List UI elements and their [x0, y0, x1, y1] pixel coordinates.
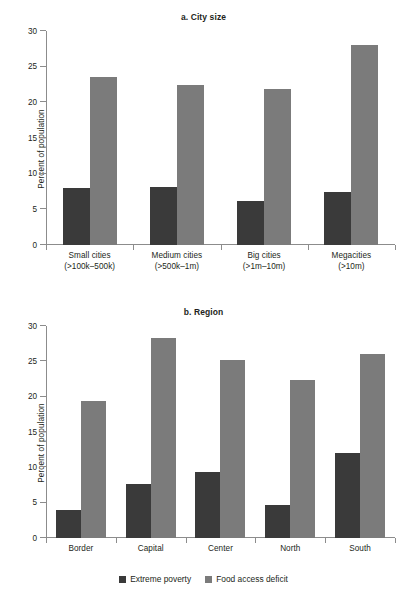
bar	[351, 45, 378, 245]
x-axis-label: Capital	[116, 538, 186, 568]
x-axis-labels-b: BorderCapitalCenterNorthSouth	[46, 538, 395, 568]
plot-area-city-size: Percent of population 302520151050 Small…	[0, 23, 407, 275]
y-tick-label-20: 20	[28, 97, 37, 106]
bar	[264, 89, 291, 245]
y-axis-label-a: Percent of population	[37, 109, 46, 188]
plot-area-region: Percent of population 302520151050 Borde…	[0, 318, 407, 568]
bar	[81, 401, 106, 538]
x-axis-labels-a: Small cities(>100k–500k)Medium cities(>5…	[46, 245, 395, 275]
legend-swatch-icon	[205, 576, 212, 583]
chart-legend: Extreme povertyFood access deficit	[0, 568, 407, 584]
y-tick-label-0: 0	[32, 240, 37, 249]
bar-group	[46, 31, 133, 245]
x-axis-label: Big cities(>1m–10m)	[221, 245, 308, 275]
chart-panel-region: b. Region Percent of population 30252015…	[0, 295, 407, 603]
y-tick-label-20: 20	[28, 392, 37, 401]
y-tick-label-30: 30	[28, 26, 37, 35]
axis-area-b: 302520151050	[46, 326, 395, 538]
bar	[151, 338, 176, 538]
bar	[324, 192, 351, 245]
bar-group	[308, 31, 395, 245]
y-tick-label-5: 5	[32, 204, 37, 213]
bar	[56, 510, 81, 538]
bar	[63, 188, 90, 245]
bar-group	[116, 326, 186, 538]
x-axis-label: Center	[186, 538, 256, 568]
x-axis-label: Small cities(>100k–500k)	[46, 245, 133, 275]
bar-groups-a	[46, 31, 395, 245]
bar	[265, 505, 290, 538]
bar-groups-b	[46, 326, 395, 538]
bar-group	[221, 31, 308, 245]
x-tick-5	[395, 538, 396, 543]
x-axis-label: Border	[46, 538, 116, 568]
bar-group	[133, 31, 220, 245]
bar	[335, 453, 360, 539]
x-axis-label: Medium cities(>500k–1m)	[133, 245, 220, 275]
x-axis-label: Megacities(>10m)	[308, 245, 395, 275]
bar	[126, 484, 151, 538]
y-tick-label-15: 15	[28, 133, 37, 142]
legend-item: Food access deficit	[205, 574, 288, 584]
bar	[177, 85, 204, 245]
bar	[150, 187, 177, 245]
chart-panel-city-size: a. City size Percent of population 30252…	[0, 0, 407, 295]
bar	[195, 472, 220, 538]
x-tick-4	[395, 245, 396, 250]
y-tick-label-15: 15	[28, 427, 37, 436]
y-tick-label-30: 30	[28, 321, 37, 330]
bar	[90, 77, 117, 245]
bar	[360, 354, 385, 538]
bar-group	[186, 326, 256, 538]
y-tick-label-10: 10	[28, 462, 37, 471]
bar-group	[325, 326, 395, 538]
legend-swatch-icon	[119, 576, 126, 583]
bar	[237, 201, 264, 245]
axis-area-a: 302520151050	[46, 31, 395, 245]
legend-label: Food access deficit	[216, 574, 288, 584]
x-axis-label: South	[325, 538, 395, 568]
bar-group	[255, 326, 325, 538]
bar	[220, 360, 245, 538]
y-tick-label-25: 25	[28, 62, 37, 71]
x-axis-label: North	[255, 538, 325, 568]
legend-label: Extreme poverty	[130, 574, 191, 584]
y-axis-label-b: Percent of population	[37, 403, 46, 482]
legend-item: Extreme poverty	[119, 574, 191, 584]
bar-group	[46, 326, 116, 538]
y-tick-label-10: 10	[28, 169, 37, 178]
y-tick-label-5: 5	[32, 498, 37, 507]
y-tick-label-25: 25	[28, 356, 37, 365]
y-tick-label-0: 0	[32, 533, 37, 542]
chart-title-a: a. City size	[0, 0, 407, 23]
chart-title-b: b. Region	[0, 295, 407, 318]
bar	[290, 380, 315, 538]
